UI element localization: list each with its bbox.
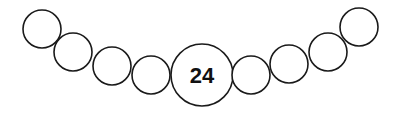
- bead-1: [23, 10, 61, 48]
- bead-2: [54, 33, 92, 71]
- bead-4: [132, 56, 170, 94]
- center-bead-label: 24: [190, 63, 215, 88]
- beads-group: [23, 8, 378, 106]
- bead-8: [309, 33, 347, 71]
- bead-7: [270, 45, 308, 83]
- bead-6: [232, 56, 270, 94]
- bead-9: [340, 8, 378, 46]
- bead-3: [93, 47, 131, 85]
- bead-chain-diagram: 24: [0, 0, 400, 115]
